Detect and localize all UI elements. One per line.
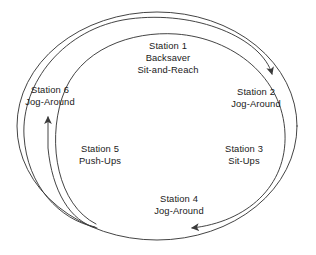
station-1-label: Station 1 Backsaver Sit-and-Reach [122, 40, 214, 76]
station-1-number: Station 1 [122, 40, 214, 52]
station-4-number: Station 4 [135, 193, 223, 205]
station-4-label: Station 4 Jog-Around [135, 193, 223, 217]
station-2-activity-line1: Jog-Around [215, 98, 297, 110]
station-2-number: Station 2 [215, 86, 297, 98]
station-3-activity-line1: Sit-Ups [206, 155, 282, 167]
station-5-activity-line1: Push-Ups [60, 155, 140, 167]
station-3-label: Station 3 Sit-Ups [206, 143, 282, 167]
station-3-number: Station 3 [206, 143, 282, 155]
circuit-diagram: Station 1 Backsaver Sit-and-Reach Statio… [0, 0, 316, 255]
station-2-label: Station 2 Jog-Around [215, 86, 297, 110]
station-1-activity-line2: Sit-and-Reach [122, 64, 214, 76]
station-5-number: Station 5 [60, 143, 140, 155]
station-6-label: Station 6 Jog-Around [9, 84, 91, 108]
station-5-label: Station 5 Push-Ups [60, 143, 140, 167]
station-1-activity-line1: Backsaver [122, 52, 214, 64]
station-6-number: Station 6 [9, 84, 91, 96]
station-6-activity-line1: Jog-Around [9, 96, 91, 108]
station-4-activity-line1: Jog-Around [135, 205, 223, 217]
